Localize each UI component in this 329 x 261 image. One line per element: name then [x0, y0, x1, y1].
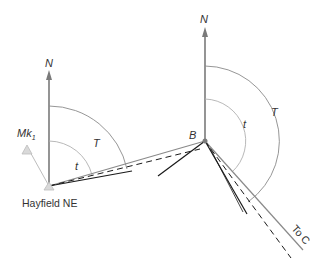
mk1-label: Mk1 — [17, 127, 36, 141]
short-line-b-to-c-2 — [210, 148, 243, 212]
north-arrow-hayfield — [46, 70, 52, 186]
hayfield-label: Hayfield NE — [22, 197, 77, 209]
short-line-hayfield — [49, 171, 132, 186]
mk1-triangle-icon — [22, 145, 32, 154]
station-b-point — [203, 139, 208, 144]
line-b-to-c — [205, 141, 303, 250]
survey-diagram: N N Mk1 T t T t B — [0, 0, 329, 261]
angle-label-T-left: T — [93, 137, 101, 149]
diagram-svg: N N Mk1 T t T t B — [0, 0, 329, 261]
mk1-line — [29, 150, 49, 186]
angle-label-T-right: T — [271, 106, 279, 118]
north-label-left: N — [45, 57, 53, 69]
arc-t-right — [205, 99, 246, 172]
station-b-label: B — [189, 129, 196, 141]
short-line-b-back — [158, 141, 205, 176]
angle-label-t-right: t — [243, 118, 247, 130]
direction-label-to-c: To C — [290, 222, 314, 246]
north-label-right: N — [200, 13, 208, 25]
hayfield-triangle-icon — [44, 182, 54, 190]
dashed-line-b-to-c — [205, 141, 291, 258]
north-arrow-b — [202, 27, 208, 141]
arc-T-left — [49, 106, 127, 169]
dashed-line-hayfield-to-b — [49, 149, 200, 186]
angle-label-t-left: t — [75, 160, 79, 172]
arc-t-left — [49, 141, 92, 175]
short-line-b-to-c — [205, 141, 247, 214]
